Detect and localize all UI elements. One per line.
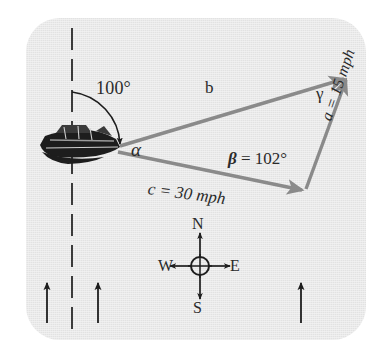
boat-icon bbox=[40, 125, 120, 164]
compass-south-label: S bbox=[193, 300, 202, 316]
current-arrows-group bbox=[47, 283, 301, 323]
angle-beta-symbol: β bbox=[228, 149, 237, 168]
heading-angle-label: 100° bbox=[96, 79, 131, 97]
compass-rose bbox=[170, 233, 230, 299]
compass-west-label: W bbox=[158, 258, 173, 274]
figure-canvas: 100° b γ α β = 102° c = 30 mph a = 15 mp… bbox=[0, 0, 385, 358]
angle-beta-label: β = 102° bbox=[228, 150, 287, 167]
compass-north-label: N bbox=[192, 216, 204, 232]
compass-east-label: E bbox=[230, 258, 240, 274]
vector-b bbox=[120, 79, 344, 146]
angle-beta-value: = 102° bbox=[241, 149, 287, 168]
angle-alpha-label: α bbox=[131, 140, 141, 159]
side-b-label: b bbox=[205, 79, 214, 96]
